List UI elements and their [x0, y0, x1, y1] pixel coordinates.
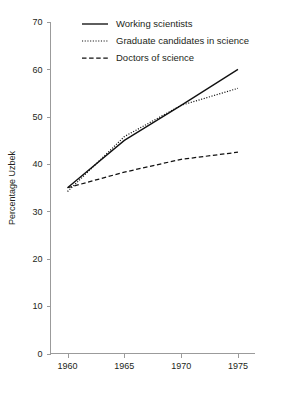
chart-container: 010203040506070 1960196519701975 Percent… [0, 0, 291, 394]
y-tick-label: 50 [32, 112, 42, 122]
legend-label-1: Graduate candidates in science [116, 35, 249, 46]
series-line-0 [68, 69, 238, 187]
series-line-1 [68, 88, 238, 191]
series-group [68, 69, 238, 191]
x-tick-label: 1970 [171, 361, 191, 371]
y-tick-label: 10 [32, 301, 42, 311]
x-tick-label: 1975 [228, 361, 248, 371]
y-tick-label: 20 [32, 254, 42, 264]
legend-label-2: Doctors of science [116, 52, 194, 63]
x-tick-label: 1965 [114, 361, 134, 371]
series-line-2 [68, 152, 238, 188]
y-tick-label: 40 [32, 159, 42, 169]
x-tick-label: 1960 [58, 361, 78, 371]
y-tick-label: 60 [32, 65, 42, 75]
y-tick-label: 0 [37, 349, 42, 359]
y-tick-label: 70 [32, 17, 42, 27]
chart-legend: Working scientistsGraduate candidates in… [82, 18, 249, 63]
line-chart: 010203040506070 1960196519701975 Percent… [0, 0, 291, 394]
y-axis-ticks: 010203040506070 [32, 17, 50, 359]
legend-label-0: Working scientists [116, 18, 193, 29]
y-tick-label: 30 [32, 207, 42, 217]
y-axis-title: Percentage Uzbek [7, 150, 17, 225]
x-axis-ticks: 1960196519701975 [58, 354, 248, 371]
